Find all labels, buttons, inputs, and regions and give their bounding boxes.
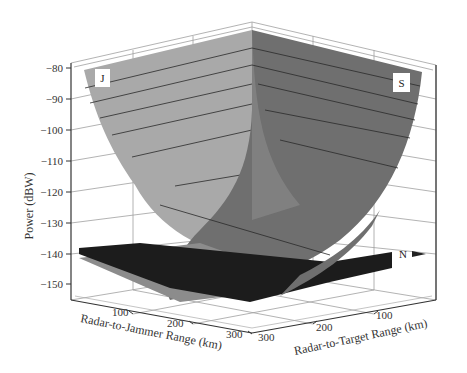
surface-chart: −80 −90 −100 −110 −120 −130 −140 −150 Po…	[0, 0, 467, 373]
y-tick-label: 100	[376, 309, 393, 321]
z-tick-label: −140	[40, 248, 63, 260]
z-tick-label: −90	[46, 93, 64, 105]
label-j-text: J	[100, 72, 105, 84]
z-tick-label: −120	[40, 186, 63, 198]
x-tick-label: 300	[226, 328, 243, 340]
y-tick-label: 300	[258, 331, 275, 343]
z-tick-label: −110	[41, 155, 64, 167]
x-tick-label: 100	[112, 306, 129, 318]
y-tick-label: 200	[316, 321, 333, 333]
label-n-text: N	[399, 248, 407, 260]
x-axis-label: Radar-to-Jammer Range (km)	[79, 311, 223, 352]
z-tick-label: −80	[46, 62, 64, 74]
z-ticks	[66, 68, 71, 284]
z-tick-labels: −80 −90 −100 −110 −120 −130 −140 −150	[40, 62, 63, 290]
z-tick-label: −100	[40, 124, 63, 136]
z-tick-label: −130	[40, 217, 63, 229]
z-axis-label: Power (dBW)	[22, 173, 36, 240]
label-s: S	[393, 73, 410, 92]
label-n: N	[399, 248, 426, 260]
z-tick-label: −150	[40, 278, 63, 290]
label-s-text: S	[398, 77, 404, 89]
label-j: J	[95, 69, 110, 87]
